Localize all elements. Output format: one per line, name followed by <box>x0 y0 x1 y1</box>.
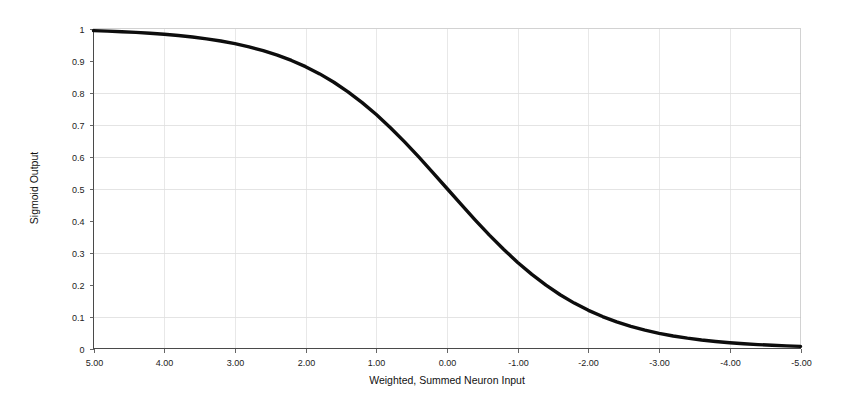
x-tick-label: 2.00 <box>298 358 316 368</box>
x-tick-label: 1.00 <box>368 358 386 368</box>
y-tick-label: 0.3 <box>72 249 85 259</box>
x-tick-label: -3.00 <box>649 358 670 368</box>
y-tick-label: 0.6 <box>72 153 85 163</box>
y-tick-label: 0.2 <box>72 281 85 291</box>
x-tick-label: 5.00 <box>86 358 104 368</box>
y-tick-label: 0.9 <box>72 57 85 67</box>
x-tick-label: -5.00 <box>791 358 812 368</box>
y-tick-label: 0.4 <box>72 217 85 227</box>
x-axis-title: Weighted, Summed Neuron Input <box>369 374 525 386</box>
x-tick-label: -2.00 <box>578 358 599 368</box>
chart-plot-svg: 10.90.80.70.60.50.40.30.20.10 5.004.003.… <box>0 0 849 400</box>
x-tick-label: -4.00 <box>720 358 741 368</box>
y-tick-label: 0.7 <box>72 121 85 131</box>
chart-background <box>0 0 849 400</box>
x-tick-label: 4.00 <box>156 358 174 368</box>
y-tick-label: 0.5 <box>72 185 85 195</box>
x-tick-label: -1.00 <box>508 358 529 368</box>
sigmoid-chart-figure: 10.90.80.70.60.50.40.30.20.10 5.004.003.… <box>0 0 849 400</box>
y-tick-label: 0 <box>79 345 84 355</box>
y-tick-label: 0.8 <box>72 89 85 99</box>
x-tick-label: 0.00 <box>439 358 457 368</box>
y-axis-title: Sigmoid Output <box>28 152 40 224</box>
x-tick-label: 3.00 <box>227 358 245 368</box>
y-tick-label: 0.1 <box>72 313 85 323</box>
y-tick-label: 1 <box>79 25 84 35</box>
